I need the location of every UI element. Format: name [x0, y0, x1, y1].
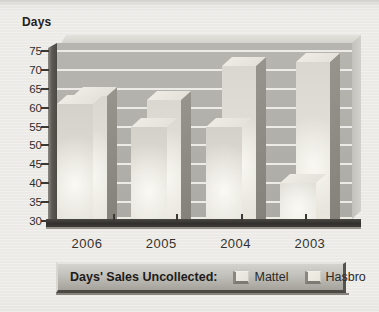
- y-axis-tick-label: 55: [16, 121, 42, 133]
- y-axis-tick: [41, 126, 49, 128]
- bar-mattel-2005: [131, 127, 167, 219]
- bar-mattel-2003: [280, 183, 316, 219]
- x-axis-category-label: 2006: [57, 236, 117, 251]
- x-axis-minor-tick: [241, 214, 243, 223]
- y-axis-tick-label: 60: [16, 102, 42, 114]
- legend-swatch-hasbro-icon: [305, 271, 321, 284]
- x-axis-minor-tick: [176, 214, 178, 223]
- y-axis-tick: [41, 107, 49, 109]
- bar-hasbro-2004-side: [256, 57, 266, 228]
- y-axis-column: [48, 43, 57, 219]
- y-axis-tick-label: 35: [16, 196, 42, 208]
- bar-hasbro-2003-side: [330, 53, 340, 228]
- bar-mattel-2004: [206, 127, 242, 219]
- y-axis-tick-label: 40: [16, 177, 42, 189]
- y-axis-tick-label: 75: [16, 45, 42, 57]
- x-axis-category-label: 2005: [131, 236, 191, 251]
- scanned-chart-figure: Days 75706560555045403530200620052004200…: [0, 0, 379, 312]
- y-axis-tick-label: 45: [16, 158, 42, 170]
- bar-hasbro-2005-side: [181, 91, 191, 228]
- y-axis-tick: [41, 69, 49, 71]
- bar-mattel-2006: [57, 104, 93, 219]
- legend-swatch-mattel-icon: [233, 271, 249, 284]
- y-axis-tick-label: 70: [16, 64, 42, 76]
- legend-title: Days' Sales Uncollected:: [70, 270, 217, 284]
- legend-panel: Days' Sales Uncollected: Mattel Hasbro: [56, 262, 346, 293]
- legend-panel-shadow: [56, 293, 349, 295]
- gridline-75: [57, 50, 352, 52]
- bar-hasbro-2006-side: [107, 87, 117, 228]
- scan-edge-shading: [0, 0, 379, 6]
- x-axis-baseline-lip: [46, 227, 361, 229]
- x-axis-category-label: 2004: [206, 236, 266, 251]
- y-axis-tick: [41, 144, 49, 146]
- y-axis-title: Days: [22, 15, 52, 29]
- x-axis-category-label: 2003: [280, 236, 340, 251]
- y-axis-tick: [41, 50, 49, 52]
- legend-item-hasbro: Hasbro: [305, 270, 366, 284]
- y-axis-tick: [41, 163, 49, 165]
- y-axis-tick: [41, 201, 49, 203]
- y-axis-tick-label: 65: [16, 83, 42, 95]
- legend-item-label: Hasbro: [326, 270, 366, 284]
- y-axis-tick: [41, 182, 49, 184]
- y-axis-tick-label: 50: [16, 139, 42, 151]
- x-axis-minor-tick: [305, 214, 307, 223]
- legend-item-mattel: Mattel: [233, 270, 288, 284]
- y-axis-tick-label: 30: [16, 215, 42, 227]
- legend-item-label: Mattel: [254, 270, 288, 284]
- y-axis-tick: [41, 88, 49, 90]
- x-axis-minor-tick: [113, 214, 115, 223]
- plot-right-edge: [352, 35, 361, 219]
- x-axis-baseline: [46, 219, 361, 227]
